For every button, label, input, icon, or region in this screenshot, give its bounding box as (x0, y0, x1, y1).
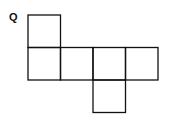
net-square-bottom (93, 80, 126, 113)
net-square-middle-4 (126, 48, 159, 81)
cube-net-diagram (0, 0, 169, 121)
net-square-middle-3 (93, 48, 126, 81)
net-square-middle-1 (28, 48, 61, 81)
net-square-middle-2 (61, 48, 94, 81)
net-square-top (28, 15, 61, 48)
